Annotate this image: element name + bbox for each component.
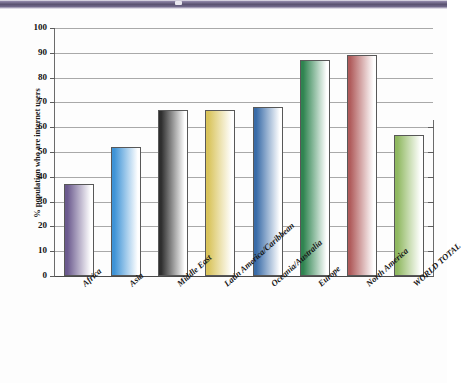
y-tick-mark-right-30 [428, 202, 434, 203]
y-tick-mark-right-50 [428, 152, 434, 153]
y-tick-label-0: 0 [11, 270, 47, 280]
y-tick-mark-50 [50, 152, 55, 153]
bar-africa[interactable] [64, 184, 94, 276]
gridline-90 [55, 53, 433, 54]
y-tick-label-80: 80 [11, 72, 47, 82]
y-tick-mark-right-20 [428, 226, 434, 227]
y-tick-mark-right-10 [428, 251, 434, 252]
y-tick-label-40: 40 [11, 171, 47, 181]
bar-asia[interactable] [111, 147, 141, 276]
y-tick-mark-20 [50, 226, 55, 227]
y-tick-label-60: 60 [11, 121, 47, 131]
y-tick-mark-80 [50, 78, 55, 79]
y-tick-mark-90 [50, 53, 55, 54]
y-tick-label-100: 100 [11, 22, 47, 32]
y-tick-mark-100 [50, 28, 55, 29]
y-tick-mark-30 [50, 202, 55, 203]
bar-middle-east[interactable] [158, 110, 188, 276]
y-tick-label-10: 10 [11, 245, 47, 255]
y-tick-mark-10 [50, 251, 55, 252]
y-tick-label-20: 20 [11, 220, 47, 230]
y-tick-mark-right-60 [428, 127, 434, 128]
y-tick-mark-right-40 [428, 177, 434, 178]
y-tick-label-50: 50 [11, 146, 47, 156]
y-tick-mark-70 [50, 102, 55, 103]
gridline-100 [55, 28, 433, 29]
bar-latin-america-caribbean[interactable] [205, 110, 235, 276]
y-tick-label-30: 30 [11, 196, 47, 206]
y-tick-mark-0 [50, 276, 55, 277]
right-axis-spine [433, 120, 434, 277]
y-tick-label-90: 90 [11, 47, 47, 57]
y-tick-label-70: 70 [11, 96, 47, 106]
y-tick-mark-60 [50, 127, 55, 128]
plot-area [55, 28, 433, 276]
y-tick-mark-40 [50, 177, 55, 178]
bar-north-america[interactable] [347, 55, 377, 276]
